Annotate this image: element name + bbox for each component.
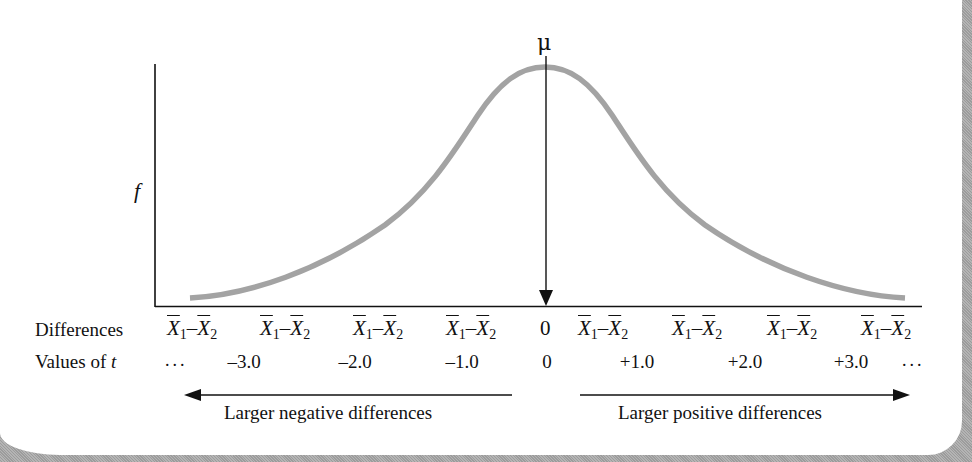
t-value-pos2: +2.0 [728,352,762,371]
t-value-pos1: +1.0 [620,352,654,371]
right-ellipsis: ... [902,350,925,371]
mu-label: μ [537,30,551,55]
difference-label: X1–X2 [578,318,628,342]
difference-label: X1–X2 [167,318,217,342]
left-ellipsis: ... [165,350,188,371]
mean-arrowhead-icon [539,290,553,306]
difference-label: X1–X2 [353,318,403,342]
distribution-curve [190,67,905,298]
difference-label: X1–X2 [260,318,310,342]
difference-center-label: 0 [540,318,551,339]
difference-label: X1–X2 [672,318,722,342]
difference-label: X1–X2 [446,318,496,342]
positive-differences-caption: Larger positive differences [618,403,822,422]
difference-label: X1–X2 [861,318,911,342]
difference-label: X1–X2 [767,318,817,342]
negative-differences-caption: Larger negative differences [224,403,432,422]
t-value-zero: 0 [542,352,552,371]
t-value-neg1: –1.0 [445,352,478,371]
y-axis-label: f [134,178,140,204]
t-distribution-plot [0,0,972,462]
t-values-row-label: Values of t [35,352,116,371]
right-arrow-icon [893,389,910,401]
t-value-neg3: –3.0 [227,352,260,371]
left-arrow-icon [184,389,201,401]
differences-row-label: Differences [35,320,123,339]
t-value-pos3: +3.0 [834,352,868,371]
t-value-neg2: –2.0 [338,352,371,371]
